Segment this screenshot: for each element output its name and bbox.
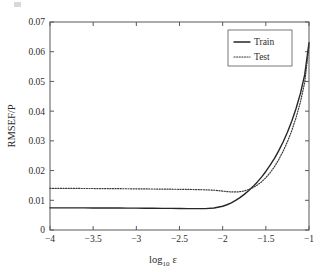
x-tick-label: −3.5 (85, 234, 102, 244)
scan-artifact (14, 2, 21, 7)
x-axis-label-subscript: 10 (163, 260, 171, 268)
x-tick-label: −1 (304, 234, 314, 244)
y-tick-label: 0.05 (28, 77, 45, 87)
chart-svg: −4−3.5−3−2.5−2−1.5−1 00.010.020.030.040.… (0, 0, 326, 272)
x-tick-label: −2.5 (171, 234, 188, 244)
x-tick-label: −4 (45, 234, 55, 244)
x-axis-label-base: log (149, 254, 163, 265)
x-tick-label: −1.5 (257, 234, 274, 244)
y-tick-label: 0 (40, 225, 45, 235)
x-tick-label: −2 (218, 234, 228, 244)
legend-label-test: Test (254, 52, 270, 62)
y-tick-label: 0.04 (28, 107, 45, 117)
chart-legend[interactable]: TrainTest (228, 30, 292, 66)
y-axis-label: RMSEF/P (6, 104, 17, 147)
y-tick-label: 0.03 (28, 136, 45, 146)
y-tick-label: 0.06 (28, 47, 45, 57)
y-tick-label: 0.02 (28, 166, 45, 176)
x-axis-label-symbol: ε (173, 254, 178, 265)
legend-label-train: Train (254, 37, 274, 47)
y-tick-label: 0.01 (28, 196, 45, 206)
x-tick-label: −3 (131, 234, 141, 244)
chart-figure: −4−3.5−3−2.5−2−1.5−1 00.010.020.030.040.… (0, 0, 326, 272)
y-tick-label: 0.07 (28, 17, 45, 27)
